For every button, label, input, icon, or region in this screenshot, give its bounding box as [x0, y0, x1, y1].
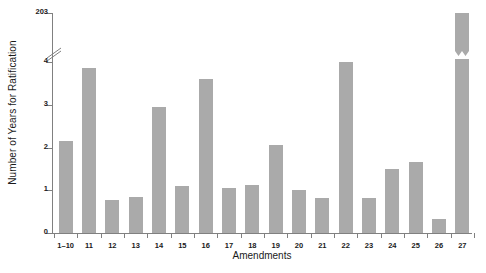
x-tick-label: 26: [435, 241, 443, 250]
x-tick-mark: [427, 233, 428, 238]
bar: [105, 200, 119, 233]
x-tick-label: 21: [318, 241, 326, 250]
x-tick-mark: [241, 233, 242, 238]
bar-break-icon: [455, 50, 469, 59]
bar: [292, 190, 306, 233]
bar: [245, 185, 259, 233]
bar: [152, 107, 166, 233]
x-axis-line: [52, 233, 472, 234]
x-tick-label: 11: [85, 241, 93, 250]
bar: [59, 141, 73, 233]
x-tick-label: 18: [248, 241, 256, 250]
x-tick-label: 19: [271, 241, 279, 250]
x-tick-mark: [217, 233, 218, 238]
y-axis-break-icon: [45, 45, 65, 63]
x-tick-mark: [357, 233, 358, 238]
y-tick-label: 2: [44, 142, 48, 151]
x-tick-label: 20: [295, 241, 303, 250]
x-tick-mark: [171, 233, 172, 238]
bar: [222, 188, 236, 233]
x-tick-label: 13: [131, 241, 139, 250]
x-tick-label: 25: [411, 241, 419, 250]
bar: [362, 198, 376, 233]
bar: [315, 198, 329, 233]
bar-chart-figure: Number of Years for Ratification 0123420…: [0, 0, 486, 273]
x-tick-label: 24: [388, 241, 396, 250]
bar: [269, 145, 283, 233]
bar: [409, 162, 423, 233]
x-tick-mark: [311, 233, 312, 238]
y-tick-label: 1: [44, 184, 48, 193]
x-tick-mark: [264, 233, 265, 238]
bar: [82, 68, 96, 233]
y-tick-label: 3: [44, 99, 48, 108]
y-tick-label: 4: [44, 56, 48, 65]
x-tick-mark: [194, 233, 195, 238]
x-tick-mark: [54, 233, 55, 238]
y-tick-label: 0: [44, 227, 48, 236]
bar: [385, 169, 399, 233]
bar: [339, 62, 353, 233]
x-tick-label: 14: [155, 241, 163, 250]
x-tick-label: 22: [341, 241, 349, 250]
x-tick-mark: [404, 233, 405, 238]
x-tick-mark: [124, 233, 125, 238]
x-tick-mark: [334, 233, 335, 238]
bar: [432, 219, 446, 233]
x-tick-label: 23: [365, 241, 373, 250]
x-tick-label: 16: [201, 241, 209, 250]
bar: [175, 186, 189, 233]
x-tick-label: 17: [225, 241, 233, 250]
x-tick-mark: [287, 233, 288, 238]
x-tick-label: 12: [108, 241, 116, 250]
bar: [455, 13, 469, 233]
x-tick-label: 27: [458, 241, 466, 250]
y-tick-label: 203: [35, 7, 48, 16]
x-tick-mark: [77, 233, 78, 238]
x-tick-label: 15: [178, 241, 186, 250]
x-tick-label: 1–10: [57, 241, 74, 250]
x-tick-mark: [101, 233, 102, 238]
bar: [199, 79, 213, 233]
y-axis-title: Number of Years for Ratification: [0, 0, 24, 249]
plot-area: 01234203 1–10111213141516171819202122232…: [52, 13, 472, 233]
x-tick-mark: [451, 233, 452, 238]
x-tick-mark-end: [474, 233, 475, 238]
bar: [129, 197, 143, 233]
x-tick-mark: [147, 233, 148, 238]
x-axis-title: Amendments: [52, 250, 472, 261]
x-tick-mark: [381, 233, 382, 238]
